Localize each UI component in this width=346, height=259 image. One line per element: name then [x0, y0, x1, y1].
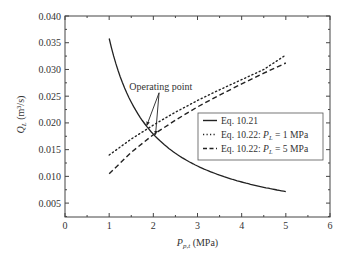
x-tick-label: 2 [151, 220, 156, 231]
y-axis-label: QL (m³/s) [15, 96, 28, 134]
y-tick-label: 0.010 [39, 171, 62, 182]
x-tick-label: 1 [107, 220, 112, 231]
x-tick-label: 6 [328, 220, 333, 231]
legend-label: Eq. 10.22: PL = 1 MPa [221, 129, 309, 141]
y-tick-label: 0.005 [39, 198, 62, 209]
y-tick-label: 0.035 [39, 37, 62, 48]
x-tick-label: 3 [195, 220, 200, 231]
y-tick-label: 0.040 [39, 11, 62, 22]
y-tick-label: 0.020 [39, 117, 62, 128]
x-tick-label: 4 [239, 220, 244, 231]
operating-point-label: Operating point [129, 81, 192, 92]
y-tick-label: 0.030 [39, 64, 62, 75]
chart: 01234560.0050.0100.0150.0200.0250.0300.0… [0, 0, 346, 259]
legend-label: Eq. 10.21 [221, 115, 258, 126]
x-tick-label: 5 [283, 220, 288, 231]
x-tick-label: 0 [63, 220, 68, 231]
y-tick-label: 0.025 [39, 91, 62, 102]
x-axis-label: Pp,t (MPa) [176, 237, 218, 250]
operating-point-arrow [147, 93, 159, 126]
y-tick-label: 0.015 [39, 144, 62, 155]
legend-label: Eq. 10.22: PL = 5 MPa [221, 143, 309, 155]
legend: Eq. 10.21Eq. 10.22: PL = 1 MPaEq. 10.22:… [198, 113, 323, 160]
operating-point-arrow [156, 93, 160, 135]
